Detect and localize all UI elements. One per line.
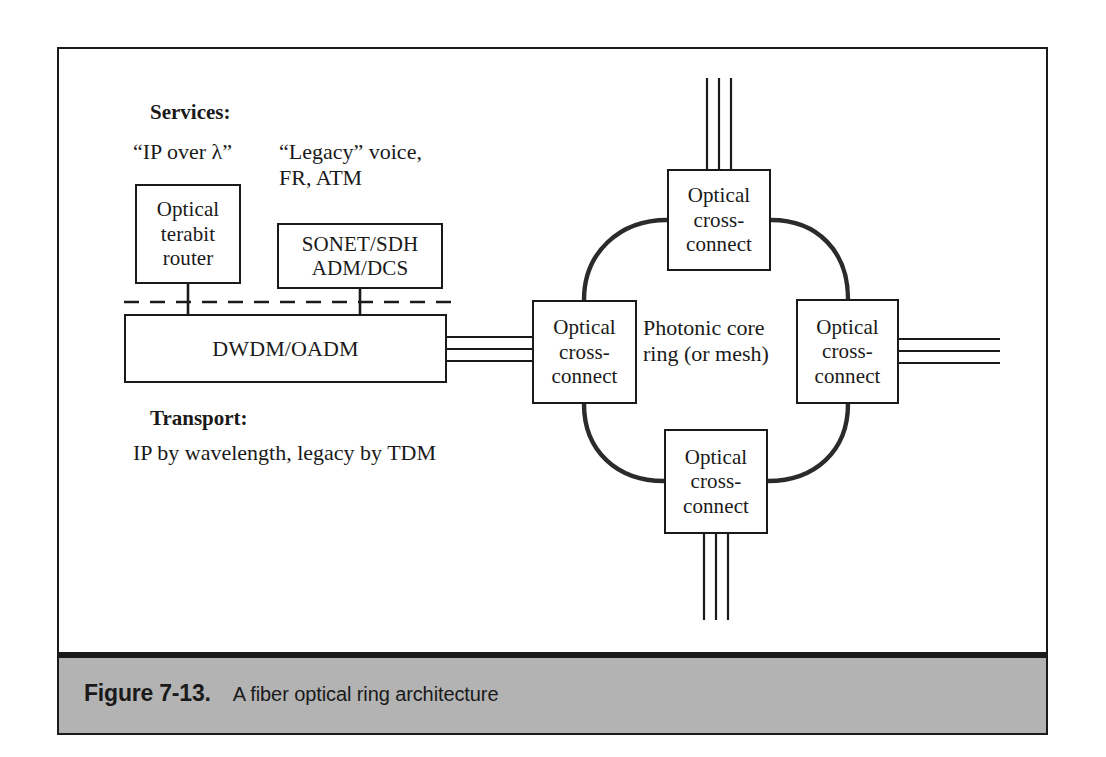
services-heading: Services: xyxy=(150,100,230,125)
node-label: Optical cross- connect xyxy=(798,315,897,388)
node-label: Optical terabit router xyxy=(137,197,239,270)
node-label: SONET/SDH ADM/DCS xyxy=(279,232,441,281)
node-label: Optical cross- connect xyxy=(534,315,635,388)
node-dwdm-oadm[interactable]: DWDM/OADM xyxy=(124,314,447,383)
node-optical-cross-connect-top[interactable]: Optical cross- connect xyxy=(667,169,771,271)
node-label: Optical cross- connect xyxy=(669,183,769,256)
node-optical-terabit-router[interactable]: Optical terabit router xyxy=(135,184,241,284)
node-optical-cross-connect-bottom[interactable]: Optical cross- connect xyxy=(664,429,768,534)
figure-number: Figure 7-13. xyxy=(84,680,211,707)
node-sonet-sdh-adm-dcs[interactable]: SONET/SDH ADM/DCS xyxy=(277,223,443,289)
ip-over-lambda-label: “IP over λ” xyxy=(133,139,232,165)
figure-caption: Figure 7-13. A fiber optical ring archit… xyxy=(84,680,498,707)
figure-title: A fiber optical ring architecture xyxy=(233,683,499,706)
figure-caption-band: Figure 7-13. A fiber optical ring archit… xyxy=(59,652,1046,733)
node-optical-cross-connect-right[interactable]: Optical cross- connect xyxy=(796,299,899,404)
legacy-services-label: “Legacy” voice, FR, ATM xyxy=(279,139,422,192)
transport-heading: Transport: xyxy=(150,406,248,431)
figure-page: Optical terabit router SONET/SDH ADM/DCS… xyxy=(0,0,1106,757)
photonic-core-label: Photonic core ring (or mesh) xyxy=(643,315,769,368)
node-label: DWDM/OADM xyxy=(210,336,360,362)
node-optical-cross-connect-left[interactable]: Optical cross- connect xyxy=(532,300,637,404)
transport-detail-label: IP by wavelength, legacy by TDM xyxy=(133,440,436,466)
node-label: Optical cross- connect xyxy=(666,445,766,518)
